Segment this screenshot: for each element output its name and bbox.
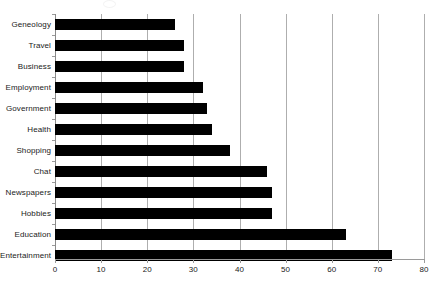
category-label: Shopping [0, 140, 51, 161]
bar-row [55, 77, 424, 98]
bar [55, 124, 212, 135]
category-label: Entertainment [0, 245, 51, 266]
category-label: Newspapers [0, 182, 51, 203]
plot-area [55, 14, 424, 259]
bar [55, 82, 203, 93]
x-tick-20 [147, 259, 148, 263]
x-tick-label: 50 [274, 265, 298, 274]
category-label: Geneology [0, 14, 51, 35]
category-label: Education [0, 224, 51, 245]
bar [55, 19, 175, 30]
bar-chart: GeneologyTravelBusinessEmploymentGovernm… [0, 0, 437, 287]
x-tick-label: 0 [43, 265, 67, 274]
x-tick-30 [193, 259, 194, 263]
bar [55, 229, 346, 240]
x-tick-40 [240, 259, 241, 263]
category-label: Hobbies [0, 203, 51, 224]
bar [55, 166, 267, 177]
x-tick-70 [378, 259, 379, 263]
x-tick-50 [286, 259, 287, 263]
x-tick-60 [332, 259, 333, 263]
bar [55, 208, 272, 219]
bar [55, 61, 184, 72]
bar-row [55, 56, 424, 77]
category-label: Travel [0, 35, 51, 56]
scan-artifact [103, 0, 116, 8]
category-label: Employment [0, 77, 51, 98]
x-tick-label: 10 [89, 265, 113, 274]
bar [55, 145, 230, 156]
bar-row [55, 119, 424, 140]
bar-row [55, 203, 424, 224]
gridline-80 [424, 14, 425, 259]
category-label: Government [0, 98, 51, 119]
bar [55, 40, 184, 51]
x-tick-label: 80 [412, 265, 436, 274]
x-tick-80 [424, 259, 425, 263]
x-tick-label: 20 [135, 265, 159, 274]
bar-row [55, 14, 424, 35]
bar-row [55, 140, 424, 161]
bar-row [55, 98, 424, 119]
x-tick-0 [55, 259, 56, 263]
category-label: Health [0, 119, 51, 140]
x-tick-10 [101, 259, 102, 263]
category-label: Chat [0, 161, 51, 182]
bar-row [55, 182, 424, 203]
bar [55, 103, 207, 114]
x-tick-label: 40 [228, 265, 252, 274]
x-tick-label: 30 [181, 265, 205, 274]
x-tick-label: 60 [320, 265, 344, 274]
x-tick-label: 70 [366, 265, 390, 274]
bar [55, 187, 272, 198]
bar-row [55, 224, 424, 245]
category-label: Business [0, 56, 51, 77]
bar-row [55, 35, 424, 56]
bar-row [55, 161, 424, 182]
